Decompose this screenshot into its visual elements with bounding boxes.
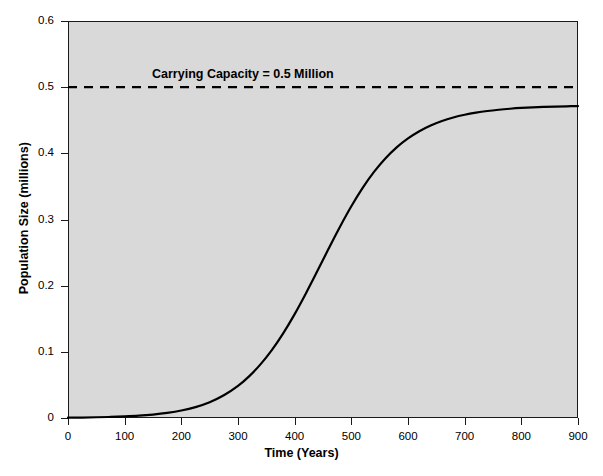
x-tick-mark <box>238 418 239 425</box>
x-tick-mark <box>68 418 69 425</box>
x-tick-label: 600 <box>378 431 438 443</box>
population-growth-curve <box>68 106 578 418</box>
x-tick-mark <box>125 418 126 425</box>
y-tick-label: 0 <box>6 412 54 424</box>
y-tick-mark <box>61 21 68 22</box>
x-tick-label: 300 <box>208 431 268 443</box>
figure-caption-partial <box>28 470 328 476</box>
carrying-capacity-annotation: Carrying Capacity = 0.5 Million <box>152 68 334 81</box>
x-tick-mark <box>521 418 522 425</box>
x-tick-mark <box>181 418 182 425</box>
x-tick-mark <box>351 418 352 425</box>
y-tick-label: 0.1 <box>6 346 54 358</box>
x-tick-label: 200 <box>151 431 211 443</box>
x-tick-label: 900 <box>548 431 603 443</box>
x-tick-label: 100 <box>95 431 155 443</box>
y-tick-mark <box>61 286 68 287</box>
x-tick-mark <box>465 418 466 425</box>
x-tick-mark <box>408 418 409 425</box>
figure-container: 00.10.20.30.40.50.6 01002003004005006007… <box>0 0 603 476</box>
x-axis-title: Time (Years) <box>0 447 603 460</box>
x-tick-mark <box>578 418 579 425</box>
x-tick-label: 700 <box>435 431 495 443</box>
y-tick-mark <box>61 87 68 88</box>
x-tick-label: 500 <box>321 431 381 443</box>
y-tick-label: 0.5 <box>6 81 54 93</box>
y-tick-label: 0.6 <box>6 15 54 27</box>
x-tick-label: 400 <box>265 431 325 443</box>
y-tick-mark <box>61 153 68 154</box>
y-tick-mark <box>61 352 68 353</box>
y-tick-mark <box>61 418 68 419</box>
x-tick-mark <box>295 418 296 425</box>
x-tick-label: 0 <box>38 431 98 443</box>
y-tick-mark <box>61 220 68 221</box>
y-axis-title: Population Size (millions) <box>18 108 31 328</box>
x-tick-label: 800 <box>491 431 551 443</box>
